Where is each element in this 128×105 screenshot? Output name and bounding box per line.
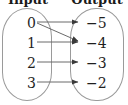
mapping-arrows bbox=[0, 0, 128, 105]
arrow-0-to-minus4 bbox=[37, 23, 78, 41]
mapping-diagram: Input Output 0 1 2 3 −5 −4 −3 −2 bbox=[0, 0, 128, 105]
